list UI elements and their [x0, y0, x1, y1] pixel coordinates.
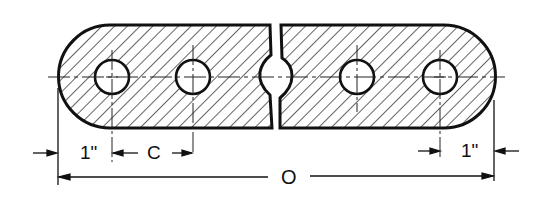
label-hole-spacing: C — [144, 143, 164, 162]
label-overall-length: O — [278, 167, 300, 187]
label-left-offset: 1" — [77, 143, 100, 162]
link-plate-drawing — [0, 0, 552, 214]
dim-overall — [59, 173, 493, 180]
dim-left-offset — [33, 150, 57, 156]
label-right-offset: 1" — [458, 141, 481, 160]
